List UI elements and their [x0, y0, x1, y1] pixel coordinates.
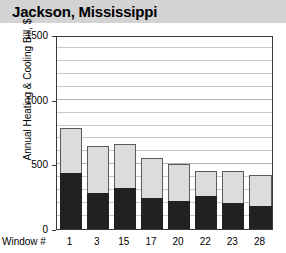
gridline [57, 137, 272, 138]
gridline [57, 112, 272, 113]
y-tick-label: 1500 [14, 31, 48, 41]
bar [141, 158, 163, 229]
x-tick-label: 28 [246, 236, 273, 247]
page-title: Jackson, Mississippi [12, 2, 157, 21]
plot-area [56, 36, 273, 230]
y-tick-label: 1000 [14, 96, 48, 106]
bar-segment-lower [87, 193, 109, 229]
chart-figure: Jackson, Mississippi Annual Heating & Co… [0, 0, 286, 253]
y-tick-label: 0 [14, 225, 48, 235]
bar [168, 164, 190, 229]
x-tick-label: 15 [110, 236, 137, 247]
y-tick-label: 500 [14, 160, 48, 170]
gridline [57, 99, 272, 100]
y-tick-mark [52, 230, 56, 231]
bar-segment-lower [249, 206, 271, 229]
x-tick-label: 1 [56, 236, 83, 247]
bar [114, 144, 136, 229]
bar-segment-lower [114, 188, 136, 229]
x-tick-label: 23 [219, 236, 246, 247]
gridline [57, 73, 272, 74]
x-tick-label: 22 [192, 236, 219, 247]
x-tick-label: 20 [165, 236, 192, 247]
gridline [57, 125, 272, 126]
x-tick-label: 17 [137, 236, 164, 247]
bar [60, 128, 82, 229]
bar-segment-lower [60, 173, 82, 229]
bar-segment-lower [141, 198, 163, 229]
bar [87, 146, 109, 229]
bar-segment-lower [168, 201, 190, 229]
gridline [57, 60, 272, 61]
gridline [57, 47, 272, 48]
x-tick-label: 3 [83, 236, 110, 247]
y-axis-label: Annual Heating & Cooling Bill, $ [22, 0, 33, 185]
bar [222, 171, 244, 229]
bar-segment-lower [195, 196, 217, 229]
x-axis-caption: Window # [2, 236, 46, 247]
bar [249, 175, 271, 229]
gridline [57, 86, 272, 87]
bar-segment-lower [222, 203, 244, 229]
title-band: Jackson, Mississippi [0, 0, 286, 23]
bar [195, 171, 217, 229]
